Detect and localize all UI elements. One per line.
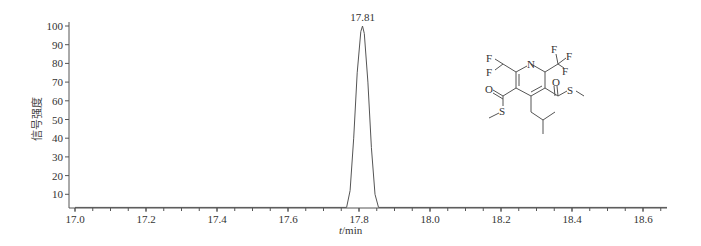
axes <box>69 22 667 208</box>
plot-area: 102030405060708090100 17.017.217.417.617… <box>0 0 701 246</box>
bond <box>516 88 531 96</box>
atom-label-f: F <box>551 43 557 55</box>
y-tick-label: 100 <box>47 20 64 32</box>
bond <box>558 91 567 96</box>
x-tick-label: 17.2 <box>136 213 155 225</box>
x-tick-label: 18.6 <box>633 213 653 225</box>
bond <box>493 90 503 96</box>
bond <box>495 64 503 70</box>
bond <box>543 112 555 120</box>
y-axis-ticks: 102030405060708090100 <box>47 20 70 200</box>
y-tick-label: 20 <box>52 170 64 182</box>
x-axis-label: t/min <box>339 224 362 236</box>
atom-label-s: S <box>499 105 505 117</box>
y-tick-label: 30 <box>52 151 64 163</box>
x-tick-label: 17.0 <box>65 213 85 225</box>
x-tick-label: 17.4 <box>207 213 227 225</box>
y-axis-label-text: 信号强度 <box>28 97 44 141</box>
bond <box>493 93 503 99</box>
atom-label-o: O <box>485 83 493 95</box>
bond <box>516 66 527 72</box>
peak-annotations: 17.81 <box>350 11 375 23</box>
atom-label-o: O <box>552 76 560 88</box>
x-tick-label: 17.6 <box>278 213 298 225</box>
bond <box>545 64 558 72</box>
atom-label-f: F <box>566 50 572 62</box>
atom-label-f: F <box>486 66 492 78</box>
bond <box>576 91 584 96</box>
x-axis-ticks: 17.017.217.417.617.818.018.218.418.6 <box>65 208 660 225</box>
y-tick-label: 80 <box>52 57 64 69</box>
chromatogram-trace <box>75 26 667 207</box>
bond <box>531 88 545 96</box>
y-tick-label: 70 <box>52 76 64 88</box>
atom-label-f: F <box>486 52 492 64</box>
peak-label: 17.81 <box>350 11 375 23</box>
atom-label-f: F <box>562 65 568 77</box>
y-tick-label: 60 <box>52 95 64 107</box>
bond <box>531 112 543 120</box>
y-tick-label: 90 <box>52 39 64 51</box>
y-tick-label: 50 <box>52 114 64 126</box>
bond <box>558 58 566 64</box>
x-tick-label: 18.0 <box>420 213 440 225</box>
y-tick-label: 40 <box>52 132 64 144</box>
chromatogram-chart: 102030405060708090100 17.017.217.417.617… <box>0 0 701 246</box>
bond <box>545 88 558 96</box>
bond <box>489 113 499 118</box>
y-tick-label: 10 <box>52 188 64 200</box>
bond <box>495 59 503 64</box>
atom-label-n: N <box>527 58 535 70</box>
bond <box>556 54 558 64</box>
x-tick-label: 18.2 <box>491 213 510 225</box>
bond <box>503 64 516 72</box>
x-tick-label: 18.4 <box>562 213 582 225</box>
atom-label-s: S <box>567 84 573 96</box>
x-axis-unit: /min <box>342 224 362 236</box>
y-axis-label: 信号强度 <box>26 94 46 144</box>
chemical-structure-inset: N F F F F F O O S S <box>485 43 584 134</box>
bond <box>503 88 516 96</box>
